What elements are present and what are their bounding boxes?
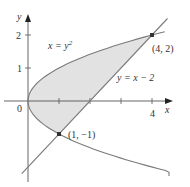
line-label: y = x − 2 [116, 72, 154, 83]
point-label-4-2: (4, 2) [152, 43, 174, 55]
point-label-1-neg1: (1, −1) [68, 129, 95, 141]
shaded-region [28, 35, 152, 134]
diagram-figure: y x 0 2 1 4 x = y2 y = x − 2 (4, 2) (1, … [0, 0, 190, 187]
x-tick-label-4: 4 [150, 108, 155, 119]
x-axis-label: x [164, 104, 170, 115]
y-tick-label-2: 2 [16, 30, 21, 41]
y-axis-arrow-icon [25, 14, 31, 22]
intersection-point-marker [150, 33, 154, 37]
y-tick-label-1: 1 [17, 63, 22, 74]
intersection-point-marker [57, 132, 61, 136]
origin-label: 0 [17, 103, 22, 114]
parabola-label: x = y2 [47, 39, 73, 51]
y-axis-label: y [16, 11, 22, 22]
